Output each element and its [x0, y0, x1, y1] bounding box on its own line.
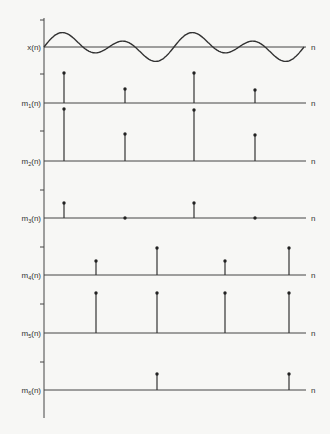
signal-label: m6(n)	[21, 386, 41, 396]
panel-m1: nm1(n)	[21, 71, 315, 109]
sample-dot	[192, 108, 195, 111]
panel-m3: nm3(n)	[21, 201, 315, 224]
axis-n-label: n	[311, 214, 315, 223]
sample-dot	[192, 201, 195, 204]
signal-label: m3(n)	[21, 214, 41, 224]
sample-dot	[253, 88, 256, 91]
sample-dot	[287, 291, 290, 294]
axis-n-label: n	[311, 157, 315, 166]
signal-label: m1(n)	[21, 99, 41, 109]
sample-dot	[287, 246, 290, 249]
panel-m5: nm5(n)	[21, 291, 315, 339]
signal-panels: nx(n)nm1(n)nm2(n)nm3(n)nm4(n)nm5(n)nm6(n…	[21, 33, 315, 396]
sample-dot	[155, 372, 158, 375]
sample-dot	[223, 259, 226, 262]
sample-dot	[253, 133, 256, 136]
axis-n-label: n	[311, 99, 315, 108]
axis-n-label: n	[311, 43, 315, 52]
sample-dot	[287, 372, 290, 375]
sample-dot	[253, 216, 256, 219]
sample-dot	[192, 71, 195, 74]
input-waveform	[44, 33, 304, 62]
sample-dot	[94, 291, 97, 294]
sample-dot	[123, 216, 126, 219]
sample-dot	[155, 246, 158, 249]
panel-m6: nm6(n)	[21, 372, 315, 396]
axis-n-label: n	[311, 386, 315, 395]
panel-x: nx(n)	[27, 33, 315, 62]
sample-dot	[62, 71, 65, 74]
sample-dot	[155, 291, 158, 294]
multirate-signal-diagram: nx(n)nm1(n)nm2(n)nm3(n)nm4(n)nm5(n)nm6(n…	[0, 0, 330, 434]
axis-n-label: n	[311, 329, 315, 338]
panel-m2: nm2(n)	[21, 107, 315, 167]
sample-dot	[123, 87, 126, 90]
sample-dot	[62, 107, 65, 110]
axis-n-label: n	[311, 271, 315, 280]
sample-dot	[123, 132, 126, 135]
signal-label: m5(n)	[21, 329, 41, 339]
panel-m4: nm4(n)	[21, 246, 315, 281]
sample-dot	[94, 259, 97, 262]
sample-dot	[223, 291, 226, 294]
signal-label: m2(n)	[21, 157, 41, 167]
signal-label: x(n)	[27, 43, 41, 52]
sample-dot	[62, 201, 65, 204]
signal-label: m4(n)	[21, 271, 41, 281]
axis-ticks	[40, 20, 44, 362]
